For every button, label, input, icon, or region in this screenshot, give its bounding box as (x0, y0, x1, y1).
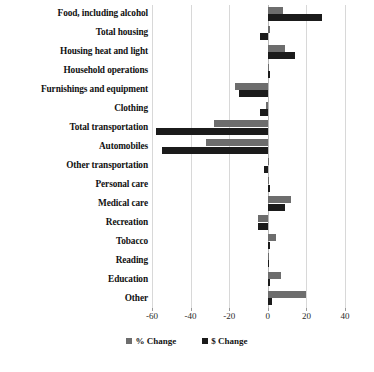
gridline (345, 5, 346, 308)
bar-dol (268, 71, 270, 78)
bar-pct (235, 83, 268, 90)
bar-pct (268, 253, 269, 260)
bar-pct (268, 272, 282, 279)
bar-dol (156, 128, 268, 135)
bar-dol (268, 204, 285, 211)
legend-item[interactable]: $ Change (202, 336, 247, 346)
bar-pct (214, 120, 268, 127)
x-tick-label: 0 (251, 311, 285, 321)
legend-label: $ Change (211, 336, 247, 346)
bar-dol (239, 90, 268, 97)
black-square-icon (202, 338, 208, 344)
x-tick-label: -40 (174, 311, 208, 321)
category-label: Reading (0, 256, 148, 265)
bar-pct (268, 45, 285, 52)
category-label: Other transportation (0, 161, 148, 170)
x-tick-label: -20 (212, 311, 246, 321)
x-axis: -60-40-2002040 (152, 308, 345, 324)
bar-pct (206, 139, 268, 146)
bar-dol (258, 223, 268, 230)
category-label: Food, including alcohol (0, 9, 148, 18)
bar-dol (260, 109, 268, 116)
bar-chart: Food, including alcoholTotal housingHous… (0, 0, 374, 372)
category-label: Personal care (0, 180, 148, 189)
category-label: Medical care (0, 199, 148, 208)
bar-dol (268, 279, 270, 286)
bar-dol (264, 166, 268, 173)
bar-dol (268, 242, 270, 249)
category-label: Furnishings and equipment (0, 85, 148, 94)
gridline (191, 5, 192, 308)
bar-pct (268, 177, 269, 184)
category-label: Housing heat and light (0, 47, 148, 56)
plot-area (152, 5, 345, 308)
bar-dol (268, 298, 272, 305)
bar-dol (268, 185, 270, 192)
category-label: Household operations (0, 66, 148, 75)
bar-pct (268, 196, 291, 203)
gray-square-icon (126, 338, 132, 344)
category-label: Recreation (0, 218, 148, 227)
bar-pct (268, 7, 283, 14)
bar-pct (268, 158, 269, 165)
bar-pct (268, 64, 269, 71)
bar-pct (266, 102, 268, 109)
x-tick-label: 20 (289, 311, 323, 321)
bar-pct (268, 291, 307, 298)
x-tick-label: 40 (328, 311, 362, 321)
bar-dol (268, 260, 269, 267)
bar-dol (268, 14, 322, 21)
gridline (152, 5, 153, 308)
bar-pct (268, 26, 270, 33)
gridline (229, 5, 230, 308)
category-axis: Food, including alcoholTotal housingHous… (0, 5, 152, 308)
category-label: Clothing (0, 104, 148, 113)
category-label: Education (0, 275, 148, 284)
legend-label: % Change (135, 336, 176, 346)
category-label: Other (0, 294, 148, 303)
category-label: Total housing (0, 28, 148, 37)
bar-pct (268, 234, 276, 241)
bar-pct (258, 215, 268, 222)
bar-dol (268, 52, 295, 59)
bar-dol (162, 147, 268, 154)
chart-legend: % Change$ Change (0, 334, 374, 348)
bar-dol (260, 33, 268, 40)
x-tick-label: -60 (135, 311, 169, 321)
legend-item[interactable]: % Change (126, 336, 176, 346)
category-label: Tobacco (0, 237, 148, 246)
category-label: Total transportation (0, 123, 148, 132)
category-label: Automobiles (0, 142, 148, 151)
gridline (306, 5, 307, 308)
